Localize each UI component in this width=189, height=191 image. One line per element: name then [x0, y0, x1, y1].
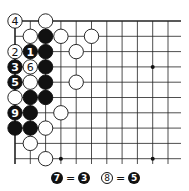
caption-move-7: 7 = 3	[51, 171, 90, 185]
black-stone-icon: 5	[128, 172, 140, 184]
go-board: 4213659	[0, 0, 189, 168]
move-number: 9	[11, 107, 19, 120]
white-stone	[84, 29, 98, 43]
caption-move-8: 8 = 5	[101, 171, 140, 185]
white-stone-6: 6	[23, 60, 37, 74]
move-number: 4	[12, 15, 19, 28]
white-stone-2: 2	[8, 44, 22, 58]
move-number: 2	[12, 46, 19, 59]
move-number: 6	[27, 61, 34, 74]
white-stone	[38, 14, 52, 28]
equals-sign: =	[66, 172, 75, 185]
white-stone	[23, 75, 37, 89]
white-stone	[23, 136, 37, 150]
black-stone	[23, 121, 37, 135]
star-point-icon	[151, 65, 155, 69]
black-stone-1: 1	[23, 44, 37, 58]
white-stone	[38, 152, 52, 166]
black-stone	[38, 90, 52, 104]
black-stone	[8, 121, 22, 135]
move-number: 5	[11, 76, 19, 89]
black-stone-icon: 7	[51, 172, 63, 184]
move-number: 1	[26, 46, 34, 59]
white-stone-icon: 8	[101, 172, 113, 184]
move-number: 3	[11, 61, 19, 74]
equals-sign: =	[116, 172, 125, 185]
black-stone-3: 3	[8, 60, 22, 74]
black-stone	[38, 29, 52, 43]
white-stone	[54, 29, 68, 43]
white-stone	[69, 44, 83, 58]
black-stone	[38, 60, 52, 74]
black-stone-icon: 3	[78, 172, 90, 184]
black-stone	[38, 44, 52, 58]
white-stone	[38, 121, 52, 135]
white-stone	[8, 90, 22, 104]
black-stone-5: 5	[8, 75, 22, 89]
black-stone-9: 9	[8, 106, 22, 120]
star-point-icon	[59, 157, 63, 161]
white-stone-4: 4	[8, 14, 22, 28]
white-stone	[54, 106, 68, 120]
white-stone	[23, 29, 37, 43]
white-stone	[69, 75, 83, 89]
star-point-icon	[151, 157, 155, 161]
black-stone	[23, 106, 37, 120]
black-stone	[38, 75, 52, 89]
black-stone	[23, 90, 37, 104]
